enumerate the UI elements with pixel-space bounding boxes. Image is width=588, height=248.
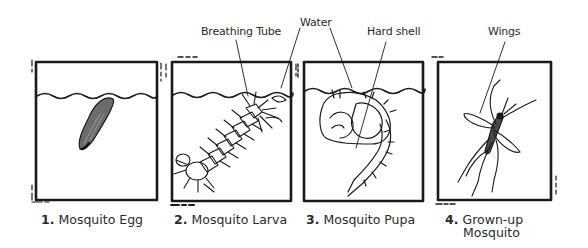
adult-mosquito-illustration (458, 80, 536, 196)
stage-number: 2. (174, 212, 187, 227)
egg-illustration (79, 98, 113, 150)
callout-wings: Wings (488, 25, 520, 38)
panel-egg (32, 60, 161, 202)
stage-number: 3. (306, 212, 319, 227)
stage-label: Mosquito Pupa (323, 212, 415, 227)
panel-adult (432, 42, 556, 204)
panel-pupa (298, 28, 425, 201)
stage-label-line-2: Mosquito (445, 226, 523, 239)
larva-illustration (174, 92, 286, 192)
wings-leader (480, 42, 505, 113)
panel-larva (166, 28, 300, 205)
breathing-tube-leader (236, 40, 248, 96)
pupa-illustration (320, 90, 396, 196)
water-leader-panel-3 (330, 28, 352, 88)
stage-number: 4. (445, 212, 458, 227)
caption-stage-3: 3.Mosquito Pupa (306, 213, 415, 226)
mosquito-life-cycle-diagram: Breathing Tube Water Hard shell Wings 1.… (0, 0, 588, 248)
caption-stage-4: 4.Grown-up Mosquito (445, 213, 523, 239)
stage-number: 1. (41, 212, 54, 227)
caption-stage-1: 1.Mosquito Egg (41, 213, 143, 226)
stage-label: Mosquito Egg (58, 212, 143, 227)
callout-water: Water (300, 16, 332, 29)
stage-label: Mosquito Larva (191, 212, 287, 227)
caption-stage-2: 2.Mosquito Larva (174, 213, 287, 226)
callout-breathing-tube: Breathing Tube (201, 25, 281, 38)
callout-hard-shell: Hard shell (367, 25, 420, 38)
